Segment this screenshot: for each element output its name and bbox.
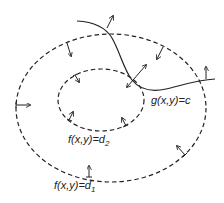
constraint-label: g(x,y)=c [151, 94, 191, 106]
inner-level-label: f(x,y)=d2 [68, 133, 110, 148]
inner-bottom-left-arrow-icon [69, 112, 73, 120]
outer-top-left-arrow-icon [67, 43, 71, 56]
g-top-normal-arrow-icon [107, 16, 113, 28]
outer-top-right-arrow-icon [157, 47, 163, 59]
outer-level-label: f(x,y)=d1 [54, 179, 95, 194]
outer-bottom-right-arrow-icon [177, 146, 185, 155]
inner-level-label-main: f(x,y)=d [68, 133, 106, 145]
outer-level-label-sub: 1 [91, 185, 95, 194]
inner-level-label-sub: 2 [104, 139, 110, 148]
constraint-curve [77, 21, 215, 90]
outer-level-set-curve [16, 34, 206, 182]
level-set-diagram: g(x,y)=c f(x,y)=d2 f(x,y)=d1 [0, 0, 224, 203]
inner-bottom-right-arrow-icon [122, 118, 126, 126]
inner-top-left-arrow-icon [75, 75, 79, 82]
outer-level-label-main: f(x,y)=d [54, 179, 92, 191]
